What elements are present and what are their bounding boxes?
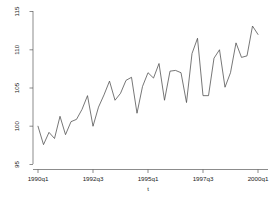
x-tick-marks [38,170,258,174]
series-group [38,26,258,145]
series-line-y [38,26,258,145]
chart-container: 115 110 105 100 95 1990q1 1992q3 1995q1 … [0,0,279,200]
y-tick-label-115: 115 [13,6,20,16]
y-tick-labels: 115 110 105 100 95 [13,6,20,168]
x-tick-labels: 1990q1 1992q3 1995q1 1997q3 2000q1 [28,175,269,182]
x-axis-title: t [147,185,149,192]
y-tick-label-95: 95 [13,161,20,168]
y-tick-label-105: 105 [13,82,20,93]
line-chart: 115 110 105 100 95 1990q1 1992q3 1995q1 … [0,0,279,200]
x-tick-label-1997q3: 1997q3 [193,175,214,182]
y-tick-label-100: 100 [13,120,20,131]
x-axis-group: 1990q1 1992q3 1995q1 1997q3 2000q1 t [28,170,269,193]
y-tick-marks [30,12,34,165]
x-tick-label-1990q1: 1990q1 [28,175,49,182]
x-tick-label-1992q3: 1992q3 [83,175,104,182]
y-tick-label-110: 110 [13,44,20,54]
x-tick-label-1995q1: 1995q1 [138,175,159,182]
x-tick-label-2000q1: 2000q1 [248,175,269,182]
y-axis-group: 115 110 105 100 95 [13,6,33,168]
